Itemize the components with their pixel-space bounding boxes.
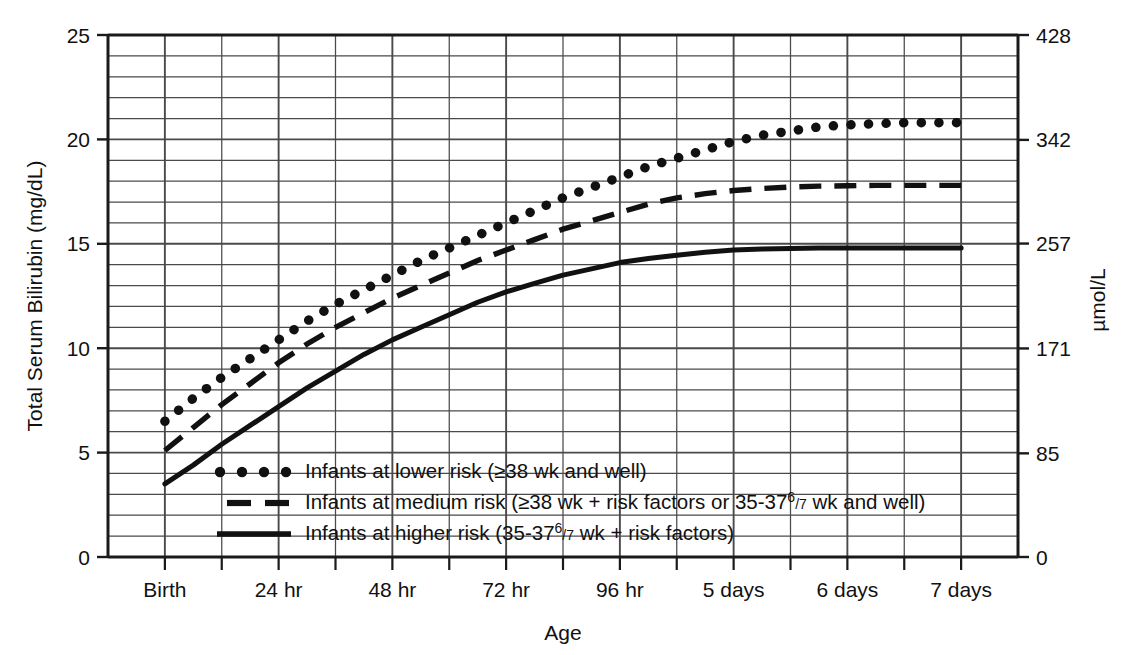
y2-tick-label: 85 [1036,442,1059,465]
x-tick-label: 5 days [703,578,765,601]
y2-tick-label: 342 [1036,128,1071,151]
legend-marker-dot [281,467,291,477]
y-tick-label: 10 [67,337,90,360]
y-tick-label: 5 [78,441,90,464]
legend-marker-dot [259,467,269,477]
y-axis-right-title: µmol/L [1086,268,1109,331]
chart-figure: 0510152025 085171257342428 Birth24 hr48 … [0,0,1131,655]
legend-marker-dot [237,467,247,477]
x-axis-title: Age [544,621,581,644]
x-tick-label: 7 days [930,578,992,601]
x-tick-label: 48 hr [368,578,416,601]
y-tick-label: 20 [67,128,90,151]
x-tick-label: 24 hr [255,578,303,601]
x-tick-label: 96 hr [596,578,644,601]
legend-label: Infants at higher risk (35-376/7 wk + ri… [305,520,734,544]
x-tick-label: 72 hr [482,578,530,601]
legend-marker-dot [215,467,225,477]
y-axis-title: Total Serum Bilirubin (mg/dL) [23,161,46,432]
legend-label: Infants at lower risk (≥38 wk and well) [305,459,647,482]
y2-tick-label: 257 [1036,232,1071,255]
y-tick-label: 0 [78,546,90,569]
x-tick-label: Birth [143,578,186,601]
y2-tick-label: 0 [1036,546,1048,569]
y-tick-label: 15 [67,232,90,255]
y2-tick-label: 171 [1036,337,1071,360]
x-tick-label: 6 days [816,578,878,601]
legend-label: Infants at medium risk (≥38 wk + risk fa… [305,489,925,513]
bilirubin-nomogram-chart: 0510152025 085171257342428 Birth24 hr48 … [0,0,1131,655]
y2-tick-label: 428 [1036,24,1071,47]
y-tick-label: 25 [67,24,90,47]
